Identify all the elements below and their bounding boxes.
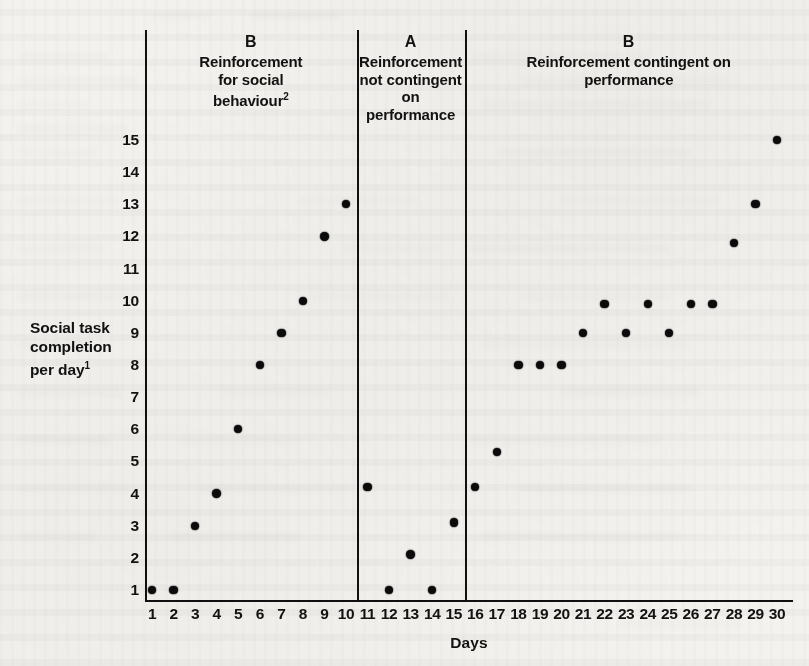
data-point: [277, 329, 285, 337]
data-point: [406, 550, 414, 558]
y-axis-tick-label: 10: [109, 293, 139, 309]
x-axis-tick-label: 30: [769, 606, 785, 622]
y-axis-tick-label: 5: [109, 454, 139, 470]
x-axis-tick-label: 26: [683, 606, 699, 622]
x-axis-tick-label: 9: [320, 606, 328, 622]
data-point: [342, 200, 350, 208]
y-axis-tick-label: 14: [109, 164, 139, 180]
x-axis-tick-label: 27: [704, 606, 720, 622]
x-axis-tick-label: 19: [532, 606, 548, 622]
x-axis-tick-label: 23: [618, 606, 634, 622]
data-point: [320, 232, 328, 240]
data-point: [363, 483, 371, 491]
x-axis-tick-label: 21: [575, 606, 591, 622]
y-axis-tick-label: 2: [109, 550, 139, 566]
data-point: [708, 300, 716, 308]
x-axis-tick-label: 20: [553, 606, 569, 622]
data-point: [514, 361, 522, 369]
x-axis-line: [145, 600, 793, 602]
y-axis-title-line-3: per day: [30, 361, 84, 378]
y-axis-title: Social task completion per day1: [30, 318, 130, 379]
plot-area: [145, 30, 793, 600]
data-point: [428, 586, 436, 594]
data-point: [471, 483, 479, 491]
x-axis-tick-label: 18: [510, 606, 526, 622]
data-point: [751, 200, 759, 208]
data-point: [622, 329, 630, 337]
data-point: [385, 586, 393, 594]
x-axis-tick-label: 2: [169, 606, 177, 622]
y-axis-tick-label: 12: [109, 229, 139, 245]
x-axis-tick-label: 3: [191, 606, 199, 622]
data-point: [730, 239, 738, 247]
x-axis-tick-label: 29: [747, 606, 763, 622]
y-axis-title-footnote: 1: [84, 360, 89, 371]
data-point: [644, 300, 652, 308]
y-axis-title-line-2: completion: [30, 338, 112, 355]
x-axis-tick-label: 6: [256, 606, 264, 622]
data-point: [773, 136, 781, 144]
x-axis-tick-label: 16: [467, 606, 483, 622]
x-axis-tick-label: 22: [596, 606, 612, 622]
x-axis-tick-label: 14: [424, 606, 440, 622]
x-axis-tick-label: 10: [338, 606, 354, 622]
x-axis-tick-label: 13: [402, 606, 418, 622]
y-axis-tick-label: 7: [109, 389, 139, 405]
data-point: [169, 586, 177, 594]
data-point: [493, 448, 501, 456]
x-axis-tick-label: 8: [299, 606, 307, 622]
data-point: [536, 361, 544, 369]
data-point: [148, 586, 156, 594]
y-axis-tick-label: 6: [109, 422, 139, 438]
data-point: [450, 518, 458, 526]
x-axis-tick-label: 4: [213, 606, 221, 622]
x-axis-tick-label: 7: [277, 606, 285, 622]
x-axis-title: Days: [145, 634, 793, 652]
x-axis-tick-label: 24: [639, 606, 655, 622]
y-axis-tick-label: 4: [109, 486, 139, 502]
x-axis-tick-label: 12: [381, 606, 397, 622]
data-point: [191, 522, 199, 530]
data-point: [234, 425, 242, 433]
y-axis-tick-label: 11: [109, 261, 139, 277]
data-point: [212, 489, 220, 497]
y-axis-tick-label: 1: [109, 582, 139, 598]
data-point: [579, 329, 587, 337]
y-axis-title-line-1: Social task: [30, 319, 110, 336]
x-axis-tick-label: 1: [148, 606, 156, 622]
data-point: [299, 297, 307, 305]
data-point: [557, 361, 565, 369]
figure-chart: BReinforcementfor socialbehaviour2AReinf…: [0, 0, 809, 666]
data-point: [687, 300, 695, 308]
x-axis-tick-label: 25: [661, 606, 677, 622]
x-axis-tick-label: 15: [445, 606, 461, 622]
x-axis-tick-label: 5: [234, 606, 242, 622]
y-axis-tick-label: 13: [109, 197, 139, 213]
data-point: [256, 361, 264, 369]
x-axis-tick-label: 11: [360, 606, 376, 622]
y-axis-tick-label: 15: [109, 132, 139, 148]
data-point: [600, 300, 608, 308]
x-axis-tick-label: 28: [726, 606, 742, 622]
data-point: [665, 329, 673, 337]
y-axis-tick-label: 3: [109, 518, 139, 534]
x-axis-tick-labels: 1234567891011121314151617181920212223242…: [145, 606, 793, 632]
x-axis-tick-label: 17: [489, 606, 505, 622]
